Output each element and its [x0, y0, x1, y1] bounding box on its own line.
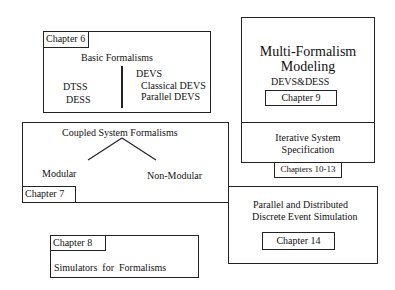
- chapters10-13-label: Chapters 10-13: [274, 162, 342, 178]
- chapters10-13-title-1: Iterative System: [241, 132, 375, 143]
- chapter14-title-1: Parallel and Distributed: [253, 199, 348, 210]
- chapter14-label: Chapter 14: [262, 232, 335, 250]
- chapter9-subtitle: DEVS&DESS: [271, 76, 329, 87]
- chapter14-title-2: Discrete Event Simulation: [252, 211, 358, 222]
- chapters10-13-title-2: Specification: [241, 144, 375, 155]
- diagram: Chapter 6 Basic Formalisms DTSS DESS DEV…: [0, 0, 395, 290]
- chapter9-title-1: Multi-Formalism: [241, 44, 375, 59]
- modular-text: Modular: [42, 168, 76, 179]
- chapter7-label: Chapter 7: [22, 186, 76, 203]
- chapter9-title-2: Modeling: [241, 59, 375, 74]
- chapter9-label: Chapter 9: [265, 90, 337, 106]
- non-modular-text: Non-Modular: [147, 170, 202, 181]
- chapter8-title: Simulators for Formalisms: [54, 262, 166, 273]
- chapter8-label: Chapter 8: [50, 235, 106, 251]
- chapter14-box: [228, 186, 378, 264]
